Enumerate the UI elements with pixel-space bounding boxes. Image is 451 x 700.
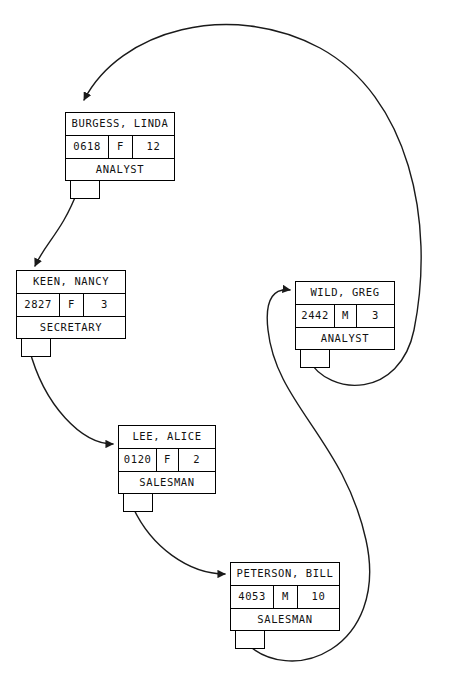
record-node-peterson[interactable]: PETERSON, BILL 4053 M 10 SALESMAN [230, 562, 340, 631]
record-fields: 2827 F 3 [17, 294, 125, 317]
record-fields: 2442 M 3 [296, 305, 394, 328]
record-num: 3 [84, 294, 125, 316]
record-emp-id: 2827 [17, 294, 60, 316]
record-fields: 4053 M 10 [231, 586, 339, 609]
connector-layer [0, 0, 451, 700]
record-num: 10 [298, 586, 339, 608]
record-emp-id: 2442 [296, 305, 335, 327]
record-name: LEE, ALICE [119, 426, 215, 449]
record-num: 2 [179, 449, 216, 471]
linked-list-diagram: BURGESS, LINDA 0618 F 12 ANALYST KEEN, N… [0, 0, 451, 700]
record-node-wild[interactable]: WILD, GREG 2442 M 3 ANALYST [295, 281, 395, 350]
record-num: 12 [133, 136, 174, 158]
record-node-lee[interactable]: LEE, ALICE 0120 F 2 SALESMAN [118, 425, 216, 494]
pointer-link-burgess-to-keen [35, 190, 78, 266]
record-sex: M [274, 586, 298, 608]
record-name: WILD, GREG [296, 282, 394, 305]
record-name: BURGESS, LINDA [66, 113, 174, 136]
record-emp-id: 0120 [119, 449, 157, 471]
record-name: KEEN, NANCY [17, 271, 125, 294]
record-num: 3 [357, 305, 394, 327]
record-name: PETERSON, BILL [231, 563, 339, 586]
pointer-link-lee-to-peterson [131, 503, 225, 574]
record-emp-id: 4053 [231, 586, 274, 608]
record-sex: F [157, 449, 178, 471]
record-sex: F [109, 136, 133, 158]
record-job: SECRETARY [17, 317, 125, 338]
record-node-keen[interactable]: KEEN, NANCY 2827 F 3 SECRETARY [16, 270, 126, 339]
record-job: ANALYST [296, 328, 394, 349]
record-fields: 0120 F 2 [119, 449, 215, 472]
record-job: SALESMAN [119, 472, 215, 493]
record-sex: M [335, 305, 357, 327]
record-emp-id: 0618 [66, 136, 109, 158]
record-node-burgess[interactable]: BURGESS, LINDA 0618 F 12 ANALYST [65, 112, 175, 181]
record-job: SALESMAN [231, 609, 339, 630]
record-job: ANALYST [66, 159, 174, 180]
record-fields: 0618 F 12 [66, 136, 174, 159]
record-sex: F [60, 294, 84, 316]
pointer-link-keen-to-lee [29, 348, 113, 444]
